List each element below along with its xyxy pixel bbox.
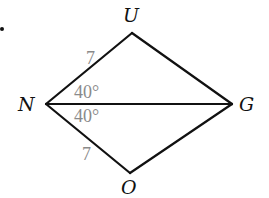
side-length-NO: 7 — [82, 144, 91, 164]
angle-GNO: 40° — [74, 106, 99, 126]
bullet-dot — [0, 27, 4, 31]
vertex-label-N: N — [17, 93, 36, 115]
segment-UG — [132, 33, 232, 104]
kite-diagram: U N G O 7 7 40° 40° — [0, 0, 269, 198]
vertex-label-O: O — [121, 176, 137, 198]
segment-OG — [130, 104, 232, 173]
angle-UNG: 40° — [74, 82, 99, 102]
side-length-NU: 7 — [86, 48, 95, 68]
vertex-label-U: U — [123, 4, 140, 26]
vertex-label-G: G — [239, 93, 254, 115]
